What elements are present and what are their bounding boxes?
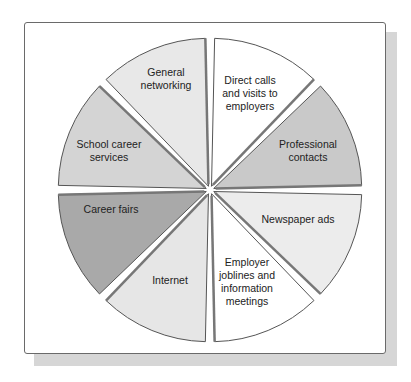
label-newspaper-ads: Newspaper ads (255, 213, 341, 226)
label-professional-contacts: Professional contacts (272, 138, 344, 164)
label-general-networking: General networking (132, 66, 200, 92)
label-school-career-services: School career services (72, 138, 146, 164)
label-career-fairs: Career fairs (76, 203, 146, 216)
pie-diagram (0, 0, 411, 382)
label-internet: Internet (142, 274, 198, 287)
label-direct-calls: Direct calls and visits to employers (216, 74, 284, 113)
label-employer-joblines: Employer joblines and information meetin… (212, 256, 282, 308)
